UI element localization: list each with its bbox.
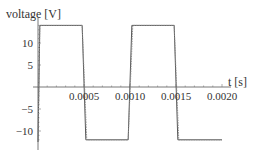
- x-axis-label: t [s]: [228, 75, 247, 89]
- voltage-chart: 0.00050.00100.00150.0020−10−5510voltage …: [0, 0, 261, 155]
- y-axis-label: voltage [V]: [6, 7, 61, 21]
- y-tick-label: 10: [22, 37, 34, 49]
- y-tick-label: −10: [16, 125, 34, 137]
- x-tick-label: 0.0015: [161, 90, 192, 102]
- x-tick-label: 0.0005: [69, 90, 100, 102]
- x-tick-label: 0.0010: [115, 90, 146, 102]
- x-tick-label: 0.0020: [207, 90, 238, 102]
- labels-layer: 0.00050.00100.00150.0020−10−5510voltage …: [6, 7, 247, 137]
- series-layer: [38, 25, 222, 142]
- y-tick-label: −5: [21, 103, 33, 115]
- y-tick-label: 5: [28, 59, 34, 71]
- axes: [33, 18, 231, 150]
- series-line-dashed: [38, 25, 222, 142]
